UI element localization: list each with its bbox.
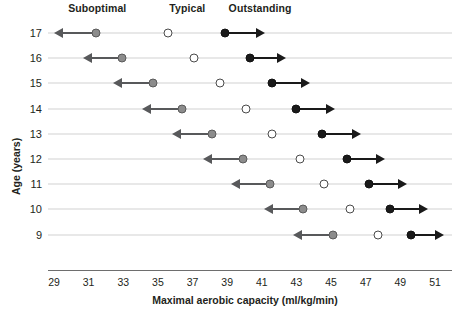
chart-container: SuboptimalTypicalOutstanding171615141312…: [0, 0, 462, 321]
outstanding-marker: [385, 205, 394, 214]
outstanding-marker: [245, 54, 254, 63]
chart-row: [48, 23, 452, 43]
suboptimal-arrowhead: [83, 53, 92, 63]
outstanding-arrowhead: [326, 104, 335, 114]
outstanding-marker: [318, 129, 327, 138]
suboptimal-marker: [328, 230, 337, 239]
outstanding-arrowhead: [376, 154, 385, 164]
y-tick-label: 10: [16, 203, 42, 215]
x-tick-label: 29: [48, 276, 60, 288]
y-tick-label: 16: [16, 52, 42, 64]
outstanding-arrow-shaft: [369, 183, 400, 185]
chart-row: [48, 99, 452, 119]
outstanding-arrowhead: [301, 78, 310, 88]
chart-row: [48, 149, 452, 169]
suboptimal-arrowhead: [142, 104, 151, 114]
outstanding-marker: [406, 230, 415, 239]
suboptimal-arrowhead: [172, 129, 181, 139]
gridline: [48, 159, 452, 160]
chart-row: [48, 124, 452, 144]
suboptimal-marker: [207, 129, 216, 138]
suboptimal-arrowhead: [264, 204, 273, 214]
typical-marker: [242, 104, 251, 113]
outstanding-arrow-shaft: [225, 32, 258, 34]
outstanding-arrowhead: [277, 53, 286, 63]
suboptimal-marker: [178, 104, 187, 113]
outstanding-marker: [342, 155, 351, 164]
y-tick-label: 15: [16, 77, 42, 89]
chart-row: [48, 48, 452, 68]
chart-row: [48, 174, 452, 194]
outstanding-arrowhead: [352, 129, 361, 139]
suboptimal-marker: [148, 79, 157, 88]
gridline: [48, 133, 452, 134]
legend-label-outstanding: Outstanding: [229, 2, 292, 14]
typical-marker: [216, 79, 225, 88]
outstanding-marker: [221, 29, 230, 38]
outstanding-marker: [268, 79, 277, 88]
x-tick-label: 31: [83, 276, 95, 288]
outstanding-arrow-shaft: [296, 108, 327, 110]
typical-marker: [320, 180, 329, 189]
y-axis-title: Age (years): [10, 138, 22, 195]
outstanding-arrowhead: [435, 230, 444, 240]
x-tick-label: 49: [395, 276, 407, 288]
typical-marker: [164, 29, 173, 38]
typical-marker: [346, 205, 355, 214]
outstanding-marker: [365, 180, 374, 189]
x-tick-label: 45: [325, 276, 337, 288]
suboptimal-marker: [117, 54, 126, 63]
y-tick-label: 14: [16, 103, 42, 115]
x-tick-label: 47: [360, 276, 372, 288]
suboptimal-marker: [91, 29, 100, 38]
typical-marker: [190, 54, 199, 63]
x-tick-label: 43: [291, 276, 303, 288]
y-tick-label: 17: [16, 27, 42, 39]
outstanding-arrow-shaft: [390, 208, 421, 210]
x-tick-label: 41: [256, 276, 268, 288]
outstanding-arrowhead: [419, 204, 428, 214]
gridline: [48, 234, 452, 235]
x-tick-label: 39: [221, 276, 233, 288]
outstanding-arrow-shaft: [322, 133, 353, 135]
suboptimal-marker: [299, 205, 308, 214]
x-tick-label: 35: [152, 276, 164, 288]
x-tick-label: 37: [187, 276, 199, 288]
suboptimal-arrowhead: [113, 78, 122, 88]
suboptimal-arrowhead: [293, 230, 302, 240]
legend-label-suboptimal: Suboptimal: [68, 2, 126, 14]
x-axis-line: [48, 270, 452, 271]
y-tick-label: 9: [16, 229, 42, 241]
suboptimal-marker: [238, 155, 247, 164]
x-tick-label: 33: [117, 276, 129, 288]
chart-row: [48, 199, 452, 219]
chart-row: [48, 225, 452, 245]
suboptimal-arrowhead: [231, 179, 240, 189]
outstanding-arrow-shaft: [347, 158, 378, 160]
plot-area: [0, 0, 462, 321]
typical-marker: [268, 129, 277, 138]
suboptimal-arrowhead: [203, 154, 212, 164]
typical-marker: [295, 155, 304, 164]
gridline: [48, 83, 452, 84]
outstanding-arrowhead: [256, 28, 265, 38]
outstanding-marker: [292, 104, 301, 113]
chart-row: [48, 73, 452, 93]
suboptimal-marker: [266, 180, 275, 189]
suboptimal-arrowhead: [54, 28, 63, 38]
outstanding-arrow-shaft: [272, 82, 303, 84]
outstanding-arrowhead: [398, 179, 407, 189]
x-tick-label: 51: [429, 276, 441, 288]
typical-marker: [373, 230, 382, 239]
legend-label-typical: Typical: [169, 2, 205, 14]
x-axis-title: Maximal aerobic capacity (ml/kg/min): [152, 294, 338, 306]
